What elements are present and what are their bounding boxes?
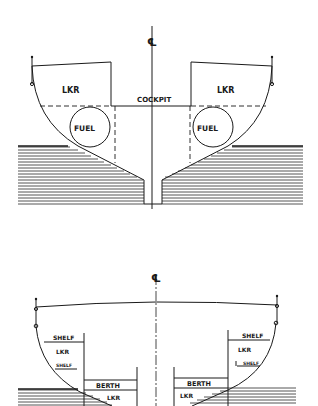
- deck-right: [191, 62, 272, 106]
- top-hull-section: ℄ LKR LKR COCKPIT FUEL FUEL: [18, 26, 303, 209]
- label-fuel-right: FUEL: [197, 124, 218, 133]
- label-cockpit: COCKPIT: [137, 96, 171, 104]
- label-berth-left: BERTH: [96, 382, 120, 390]
- bottom-hull-section: ℄ SHELF LKR SHELF BERTH LKR SHELF LKR SH…: [18, 272, 296, 406]
- label-locker-left: LKR: [62, 86, 79, 95]
- water-hatching-left-bottom: [18, 390, 112, 405]
- label-shelf-upper-right: SHELF: [242, 332, 263, 339]
- centerline-symbol: ℄: [147, 36, 157, 49]
- label-berth-right: BERTH: [187, 380, 211, 388]
- label-locker-upper-left: LKR: [56, 348, 69, 355]
- hull-diagram: ℄ LKR LKR COCKPIT FUEL FUEL: [0, 0, 318, 406]
- deck-left: [32, 62, 111, 106]
- sheer-line: [36, 302, 277, 307]
- label-shelf-lower-left: SHELF: [56, 363, 72, 368]
- label-locker-lower-left: LKR: [107, 394, 120, 401]
- centerline-symbol-bottom: ℄: [151, 272, 161, 285]
- label-locker-upper-right: LKR: [238, 346, 251, 353]
- label-locker-lower-right: LKR: [180, 392, 193, 399]
- label-locker-right: LKR: [217, 86, 234, 95]
- label-fuel-left: FUEL: [74, 124, 95, 133]
- label-shelf-lower-right: SHELF: [243, 361, 259, 366]
- label-shelf-upper-left: SHELF: [53, 334, 74, 341]
- water-hatching-right: [162, 147, 303, 204]
- water-hatching-left: [18, 147, 144, 204]
- water-hatching-right-bottom: [190, 388, 296, 403]
